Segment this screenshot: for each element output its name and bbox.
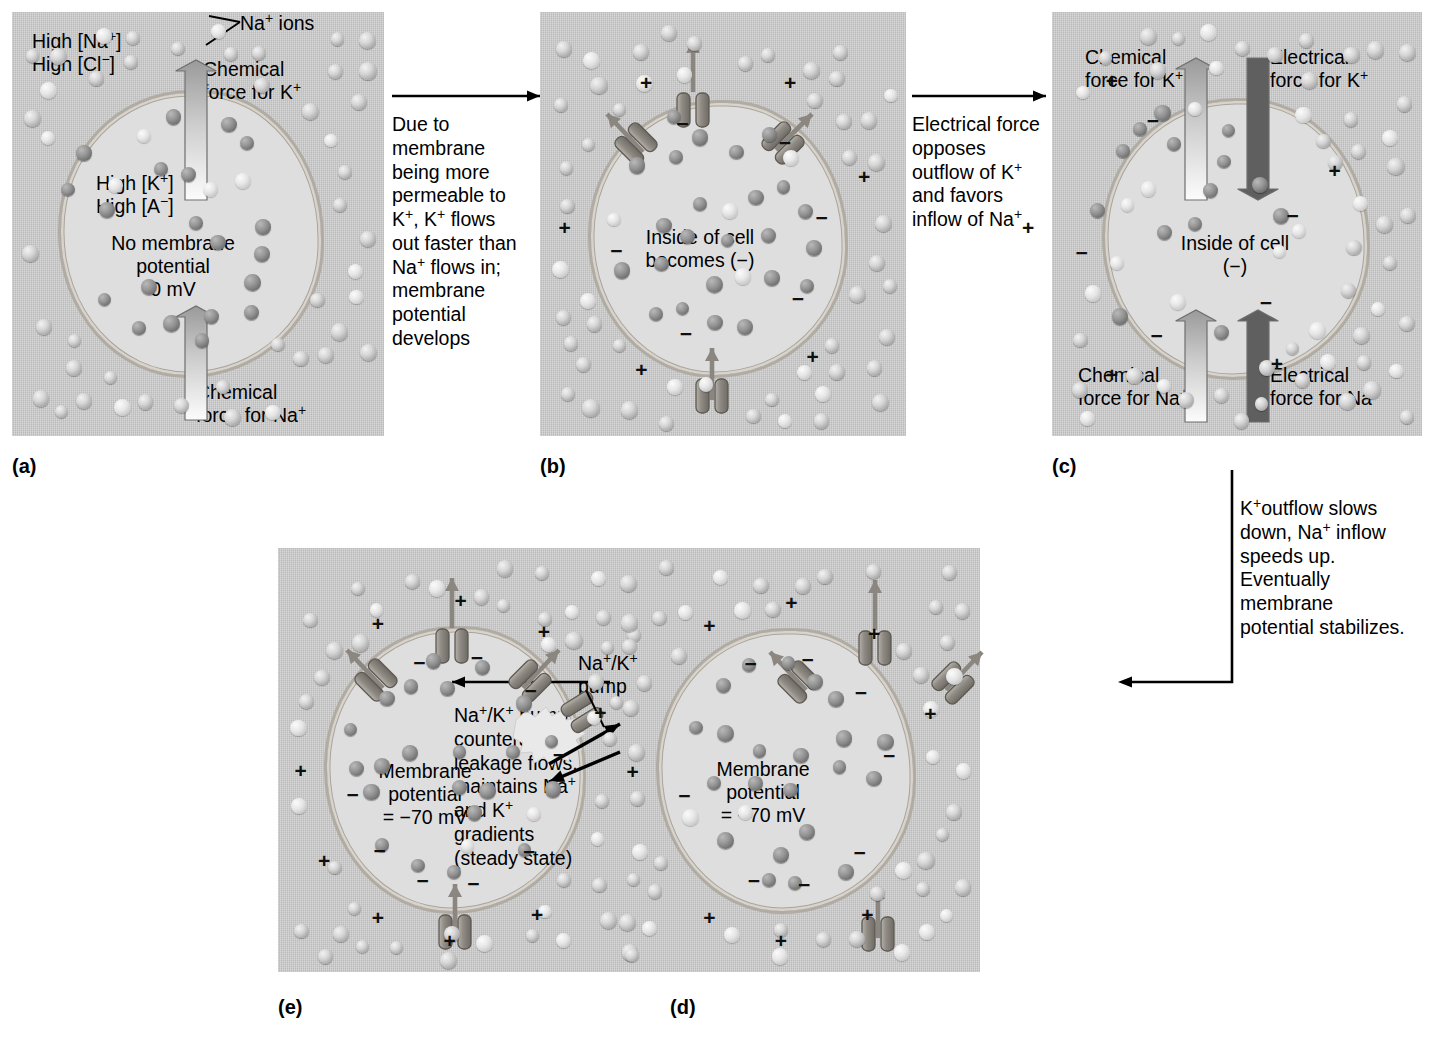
caption-d: (d) [670, 996, 696, 1019]
transition-b-to-c-arrow-head [1033, 91, 1046, 102]
transition-b-to-c-text: Electrical forceopposesoutflow of K+and … [912, 113, 1058, 232]
panel-a-na-ions-callout: Na+ ions [240, 12, 314, 35]
panel-b [540, 12, 906, 436]
panel-d-center-text: Membranepotential= −70 mV [668, 758, 858, 827]
transition-c-to-d-path [1130, 470, 1232, 682]
panel-c-elec-force-na-label: Electricalforce for Na+ [1270, 364, 1380, 410]
caption-b: (b) [540, 455, 566, 478]
panel-c-chem-force-k-label: Chemicalforce for K+ [1085, 46, 1183, 92]
caption-a: (a) [12, 455, 36, 478]
panel-a-chem-force-k-label: Chemicalforce for K+ [203, 58, 301, 104]
transition-a-to-b-arrow-head [527, 91, 540, 102]
panel-a-center-text: No membrane potential 0 mV [78, 232, 268, 301]
panel-a-outside-conc: High [Na+]High [Cl−] [32, 30, 122, 76]
panel-c-elec-force-k-label: Electricalforce for K+ [1270, 46, 1368, 92]
transition-c-to-d-text: K+outflow slowsdown, Na+ inflowspeeds up… [1240, 497, 1430, 640]
transition-c-to-d-arrow-head [1118, 677, 1132, 688]
caption-e: (e) [278, 996, 302, 1019]
panel-c-center-text: Inside of cell(−) [1140, 232, 1330, 278]
panel-a-inside-conc: High [K+]High [A−] [96, 172, 174, 218]
panel-e-pump-label: Na+/K+pump [578, 652, 638, 698]
caption-c: (c) [1052, 455, 1076, 478]
panel-c-chem-force-na-label: Chemicalforce for Na+ [1078, 364, 1188, 410]
transition-a-to-b-text: Due tomembranebeing morepermeable toK+, … [392, 113, 542, 351]
panel-b-center-text: Inside of cellbecomes (−) [600, 226, 800, 272]
panel-a-chem-force-na-label: Chemicalforce for Na+ [196, 381, 306, 427]
transition-d-to-e-text: Na+/K+ pumpcounteractsleakage flows,main… [454, 704, 610, 870]
figure-root: High [Na+]High [Cl−] Na+ ions Chemicalfo… [0, 0, 1436, 1044]
